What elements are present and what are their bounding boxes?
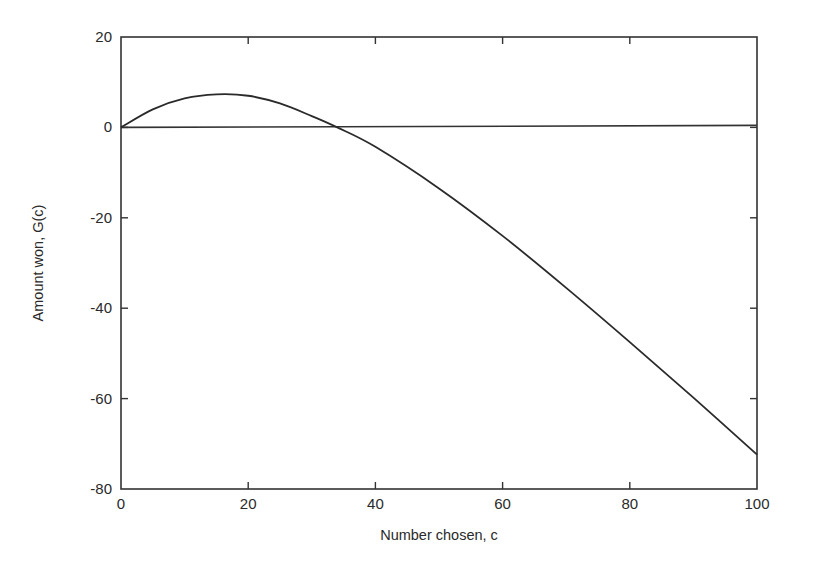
y-tick-label: -20	[90, 209, 112, 226]
x-axis-title: Number chosen, c	[380, 527, 498, 543]
x-tick-label: 80	[621, 495, 638, 512]
y-tick-label: -80	[90, 480, 112, 497]
axis-ticks	[121, 37, 757, 489]
y-tick-label: -60	[90, 390, 112, 407]
x-tick-label: 40	[367, 495, 384, 512]
y-axis-title: Amount won, G(c)	[30, 205, 46, 322]
axis-tick-labels: 020406080100200-20-40-60-80	[90, 28, 769, 512]
plot-frame	[121, 37, 757, 489]
x-tick-label: 20	[240, 495, 257, 512]
chart: 020406080100200-20-40-60-80 Number chose…	[0, 0, 817, 571]
y-tick-label: -40	[90, 299, 112, 316]
y-tick-label: 0	[104, 118, 112, 135]
y-tick-label: 20	[95, 28, 112, 45]
x-tick-label: 0	[117, 495, 125, 512]
x-tick-label: 100	[744, 495, 769, 512]
zero-reference-line	[121, 125, 757, 127]
x-tick-label: 60	[494, 495, 511, 512]
data-line-g-of-c	[121, 94, 757, 454]
